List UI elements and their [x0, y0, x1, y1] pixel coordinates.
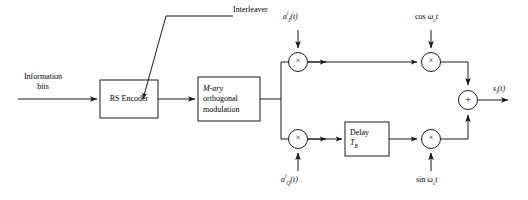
delay-label-subscript: B [354, 143, 357, 149]
output-signal-arg: (t) [498, 84, 506, 93]
spreading-code-q-sup: i [285, 173, 286, 179]
spreading-code-q-label: aiQ(t) [281, 175, 298, 185]
input-label: Information bits [12, 72, 74, 92]
multiply-icon-sin: × [421, 133, 441, 142]
plus-icon-summer: + [458, 93, 478, 105]
spreading-code-i-sup: i [287, 10, 288, 16]
mary-modulation-label-line2: orthogonal [203, 94, 238, 103]
carrier-sin-label: sin ωct [416, 175, 438, 185]
rs-encoder-label: RS Encoder [100, 94, 158, 104]
mary-modulation-label-line3: modulation [203, 105, 239, 114]
multiply-icon-cos: × [421, 56, 441, 65]
input-label-line2: bits [37, 82, 49, 91]
carrier-sin-fn: sin [416, 175, 427, 184]
mary-modulation-label: M-ary orthogonal modulation [203, 84, 239, 115]
output-signal-label: si(t) [493, 84, 505, 94]
delay-label: Delay TB [350, 128, 369, 149]
multiply-icon-q: × [288, 133, 308, 142]
carrier-cos-label: cos ωct [415, 12, 438, 22]
spreading-code-q-arg: (t) [290, 175, 298, 184]
delay-label-line1: Delay [350, 128, 369, 137]
interleaver-label: Interleaver [233, 5, 268, 15]
carrier-cos-fn: cos [415, 12, 428, 21]
mary-modulation-label-line1: M-ary [203, 84, 223, 93]
wire-cos-branch-to-summer [441, 62, 468, 85]
spreading-code-i-label: aiI(t) [283, 12, 298, 22]
wire-sin-branch-to-summer [441, 115, 468, 139]
carrier-cos-var: t [436, 12, 438, 21]
spreading-code-i-arg: (t) [290, 12, 298, 21]
carrier-sin-var: t [435, 175, 437, 184]
diagram-wiring [0, 0, 528, 200]
input-label-line1: Information [24, 72, 62, 81]
block-diagram: Information bits Interleaver RS Encoder … [0, 0, 528, 200]
multiply-icon-i: × [288, 56, 308, 65]
